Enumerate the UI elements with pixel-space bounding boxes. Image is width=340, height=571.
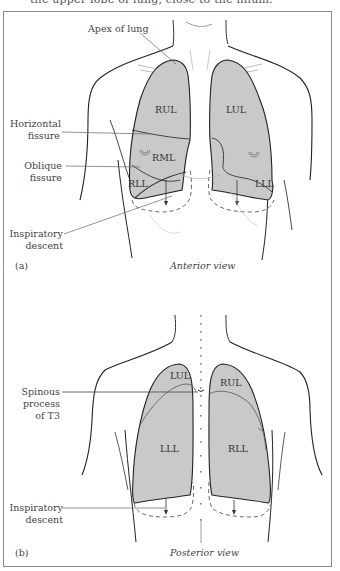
posterior-view-diagram (0, 0, 340, 571)
label-spinous-process-t3: Spinous process of T3 (10, 386, 60, 422)
lobe-rul-posterior: RUL (220, 377, 241, 388)
lobe-lll-posterior: LLL (160, 443, 179, 454)
label-spinous-line-1: Spinous (10, 386, 60, 398)
caption-posterior-view: Posterior view (170, 547, 239, 558)
label-inspiratory-post-line-2: descent (8, 514, 63, 526)
label-spinous-line-3: of T3 (10, 410, 60, 422)
lobe-lul-posterior: LUL (170, 370, 190, 381)
panel-id-b: (b) (15, 547, 29, 558)
label-inspiratory-descent-posterior: Inspiratory descent (8, 502, 63, 526)
lobe-rll-posterior: RLL (228, 443, 248, 454)
label-spinous-line-2: process (10, 398, 60, 410)
label-inspiratory-post-line-1: Inspiratory (8, 502, 63, 514)
